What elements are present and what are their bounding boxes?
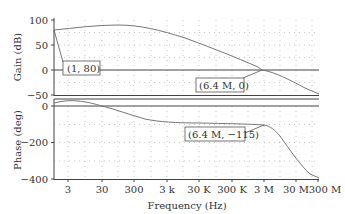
phase-grid <box>54 106 319 179</box>
bode-plot: 100 50 0 −50 Gain (dB) (1, 80) (6.4 M, 0… <box>0 0 345 214</box>
gain-y-label: Gain (dB) <box>12 33 23 81</box>
gain-annotation-leader-1 <box>54 30 63 62</box>
xtick-30k: 30 K <box>187 184 211 195</box>
xtick-3: 3 <box>65 184 71 195</box>
xtick-300m: 300 M <box>309 184 342 195</box>
gain-annotation-start: (1, 80) <box>67 63 100 74</box>
gain-annotation-crossover: (6.4 M, 0) <box>199 80 249 91</box>
x-axis-label: Frequency (Hz) <box>147 200 226 211</box>
xtick-30m: 30 M <box>283 184 309 195</box>
xtick-300k: 300 K <box>217 184 247 195</box>
gain-grid <box>54 20 319 95</box>
gain-ytick-neg50: −50 <box>27 90 48 101</box>
phase-ytick-neg400: −400 <box>21 174 48 185</box>
xtick-3k: 3 k <box>159 184 176 195</box>
xtick-3m: 3 M <box>254 184 274 195</box>
gain-curve <box>54 25 319 94</box>
gain-ytick-50: 50 <box>35 40 48 51</box>
phase-annotation-crossover: (6.4 M, −115) <box>188 129 259 140</box>
gain-ytick-100: 100 <box>29 15 48 26</box>
phase-ytick-neg200: −200 <box>21 137 48 148</box>
gain-annotation-leader-2 <box>243 70 262 78</box>
gain-ytick-0: 0 <box>42 65 48 76</box>
xtick-30: 30 <box>96 184 109 195</box>
phase-y-label: Phase (deg) <box>12 110 23 170</box>
xtick-300: 300 <box>124 184 143 195</box>
phase-ytick-0: 0 <box>42 101 48 112</box>
